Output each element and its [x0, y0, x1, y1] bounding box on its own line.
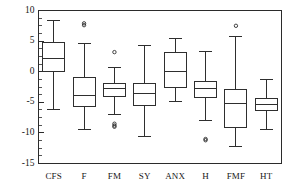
x-tick-label-SY: SY — [139, 171, 151, 181]
box-iqr — [195, 81, 217, 97]
x-tick-label-FMF: FMF — [227, 171, 246, 181]
x-tick-label-HT: HT — [260, 171, 273, 181]
box-iqr — [134, 83, 156, 106]
y-tick-label-4: -10 — [22, 127, 35, 137]
y-tick-label-0: 10 — [25, 5, 35, 15]
box-group-ANX — [164, 38, 186, 102]
box-iqr — [43, 42, 65, 71]
box-iqr — [73, 78, 95, 107]
x-tick-label-FM: FM — [108, 171, 121, 181]
box-group-FM — [103, 50, 125, 128]
outlier-point — [234, 24, 237, 27]
y-axis-tick-labels: 1050-5-10-15 — [22, 5, 35, 168]
outlier-point — [113, 50, 116, 53]
box-group-H — [195, 52, 217, 142]
y-tick-label-3: -5 — [27, 96, 35, 106]
boxplot-canvas: 1050-5-10-15 CFSFFMSYANXHFMFHT — [0, 0, 290, 196]
box-iqr — [164, 52, 186, 87]
box-series — [43, 20, 278, 147]
boxplot-figure: 1050-5-10-15 CFSFFMSYANXHFMFHT — [0, 0, 290, 196]
box-iqr — [225, 89, 247, 127]
box-group-FMF — [225, 24, 247, 147]
x-axis-tick-labels: CFSFFMSYANXHFMFHT — [45, 171, 272, 181]
box-group-CFS — [43, 20, 65, 109]
x-tick-label-ANX: ANX — [165, 171, 185, 181]
y-axis-ticks — [39, 11, 44, 164]
box-group-HT — [255, 80, 277, 130]
y-tick-label-1: 5 — [30, 35, 35, 45]
x-tick-label-H: H — [202, 171, 209, 181]
x-tick-label-CFS: CFS — [45, 171, 62, 181]
y-tick-label-5: -15 — [22, 158, 35, 168]
box-group-F — [73, 22, 95, 130]
x-tick-label-F: F — [81, 171, 86, 181]
y-tick-label-2: 0 — [30, 66, 35, 76]
box-group-SY — [134, 45, 156, 136]
box-iqr — [103, 83, 125, 96]
